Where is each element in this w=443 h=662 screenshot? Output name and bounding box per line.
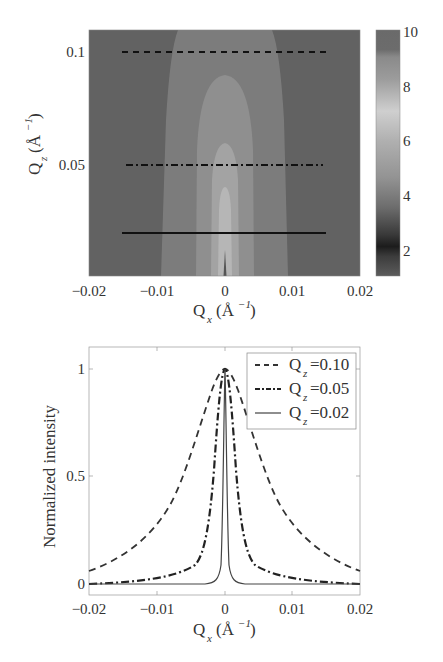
legend-label-value: =0.02 [310, 403, 349, 422]
legend: Q z =0.10 Q z =0.05 Q z =0.02 [247, 353, 356, 429]
line-plot-y-ticks: 0 0.5 1 [66, 361, 85, 592]
y-tick: 0 [78, 576, 86, 592]
heatmap-y-label: Q z (Å −1 ) [22, 113, 49, 175]
heatmap-x-label: Q x (Å −1 ) [193, 298, 256, 325]
colorbar: 10 8 6 4 2 [376, 24, 418, 276]
legend-label-value: =0.10 [310, 355, 349, 374]
x-label-sub: x [206, 313, 212, 325]
x-tick: 0 [221, 601, 229, 617]
y-label-sub: z [37, 156, 49, 162]
y-tick: 1 [78, 361, 86, 377]
x-label-close: ) [250, 301, 256, 320]
y-label-main: Q [25, 163, 44, 175]
y-label-unit: (Å [25, 134, 44, 153]
line-plot-x-label: Q x (Å −1 ) [193, 617, 256, 644]
x-tick: 0.02 [347, 601, 373, 617]
colorbar-tick: 4 [403, 188, 411, 204]
figure: −0.02 −0.01 0 0.01 0.02 0.05 0.1 Q x (Å … [0, 0, 443, 662]
line-plot-y-label: Normalized intensity [40, 404, 59, 548]
legend-label-main: Q [289, 355, 301, 374]
x-label-exp: −1 [238, 298, 251, 310]
y-tick: 0.05 [59, 157, 85, 173]
colorbar-tick: 6 [403, 133, 411, 149]
x-tick: −0.02 [72, 601, 107, 617]
x-tick: −0.02 [72, 283, 107, 299]
legend-label-main: Q [289, 403, 301, 422]
heatmap-plot: −0.02 −0.01 0 0.01 0.02 0.05 0.1 Q x (Å … [22, 24, 418, 325]
y-tick: 0.1 [66, 44, 85, 60]
x-label-exp: −1 [238, 617, 251, 629]
x-label-close: ) [250, 620, 256, 639]
x-label-unit: (Å [216, 301, 235, 320]
x-tick: 0.02 [347, 283, 373, 299]
legend-label-sub: z [302, 415, 308, 427]
x-tick: 0.01 [279, 283, 305, 299]
x-tick: 0.01 [279, 601, 305, 617]
legend-label-main: Q [289, 379, 301, 398]
x-tick: −0.01 [140, 283, 175, 299]
colorbar-tick: 2 [403, 243, 411, 259]
heatmap-y-ticks: 0.05 0.1 [59, 44, 85, 173]
line-plot: Q z =0.10 Q z =0.05 Q z =0.02 −0.02 −0.0… [40, 347, 373, 644]
heatmap-x-ticks: −0.02 −0.01 0 0.01 0.02 [72, 283, 373, 299]
x-tick: −0.01 [140, 601, 175, 617]
y-label-exp: −1 [22, 118, 34, 131]
colorbar-tick: 10 [403, 24, 418, 40]
x-label-unit: (Å [216, 620, 235, 639]
legend-label-value: =0.05 [310, 379, 349, 398]
legend-label-sub: z [302, 391, 308, 403]
x-label-main: Q [193, 301, 205, 320]
x-label-main: Q [193, 620, 205, 639]
legend-label-sub: z [302, 367, 308, 379]
y-label-close: ) [25, 113, 44, 119]
y-tick: 0.5 [66, 468, 85, 484]
colorbar-tick: 8 [403, 79, 411, 95]
x-label-sub: x [206, 632, 212, 644]
x-tick: 0 [221, 283, 229, 299]
line-plot-x-ticks: −0.02 −0.01 0 0.01 0.02 [72, 601, 373, 617]
heatmap-image [89, 30, 360, 276]
